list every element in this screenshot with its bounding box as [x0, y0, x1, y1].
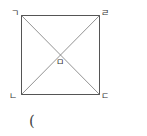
square-diagram	[0, 0, 147, 136]
vertex-label-bottom-right: ㄷ	[101, 92, 109, 101]
vertex-label-top-left: ㄱ	[11, 9, 19, 18]
vertex-label-top-right: ㄹ	[101, 9, 109, 18]
answer-blank-paren: (	[29, 114, 35, 129]
vertex-label-bottom-left: ㄴ	[9, 92, 17, 101]
center-label: ㅁ	[56, 58, 64, 67]
